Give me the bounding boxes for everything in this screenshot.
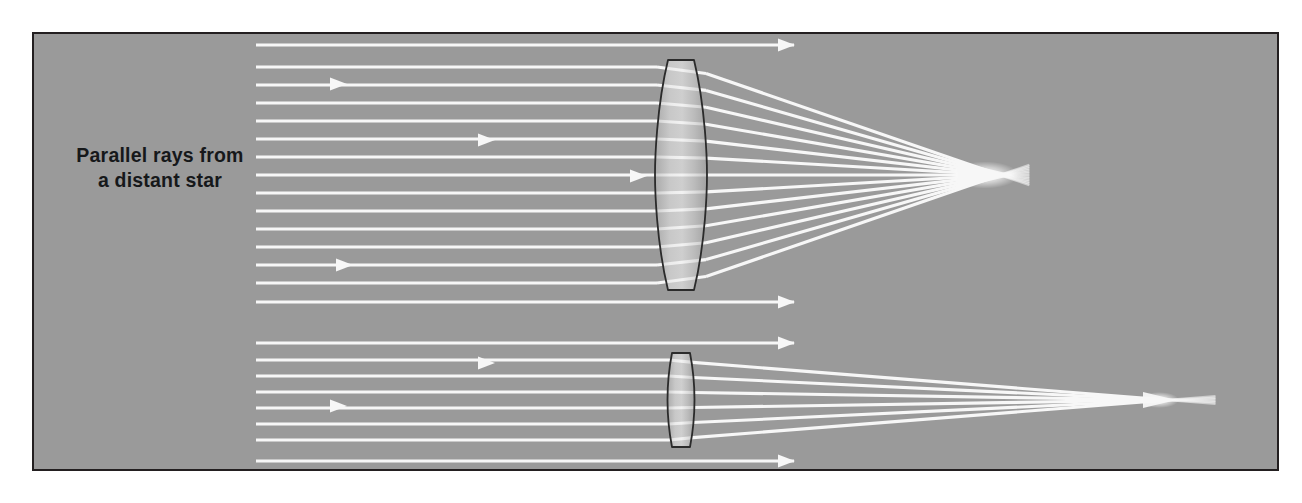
small-biconvex-lens	[668, 353, 695, 447]
lens-diagram-svg: Parallel rays from a distant star	[0, 0, 1302, 503]
large-biconvex-lens	[655, 60, 707, 290]
source-label-line-1: Parallel rays from	[76, 144, 243, 166]
figure-stage: Parallel rays from a distant star	[0, 0, 1302, 503]
source-label-line-2: a distant star	[98, 169, 222, 191]
